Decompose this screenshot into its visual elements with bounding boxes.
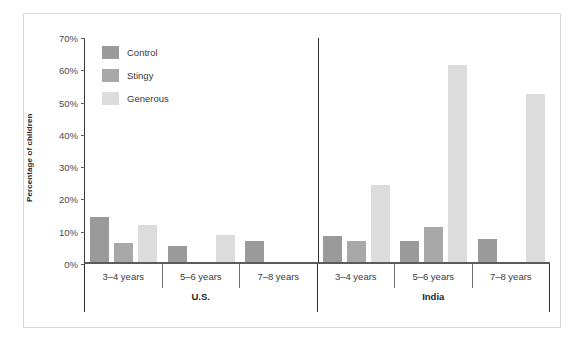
legend-label: Control (127, 47, 158, 58)
legend-label: Stingy (127, 70, 153, 81)
y-axis-tick-mark (81, 167, 85, 168)
y-axis-tick-label: 40% (38, 129, 78, 140)
y-axis-tick-label: 70% (38, 33, 78, 44)
x-axis-label-table: 3–4 years5–6 years7–8 years3–4 years5–6 … (84, 264, 550, 312)
y-axis-tick-mark (81, 135, 85, 136)
x-axis-age-label: 3–4 years (318, 264, 396, 288)
bar-control (400, 241, 419, 262)
bar-generous (526, 94, 545, 262)
x-axis-age-row: 3–4 years5–6 years7–8 years3–4 years5–6 … (84, 264, 550, 288)
bar-generous (138, 225, 157, 262)
bar-generous (216, 235, 235, 262)
bar-stingy (114, 243, 133, 262)
y-axis-tick-label: 0% (38, 259, 78, 270)
legend-item-control[interactable]: Control (102, 42, 232, 63)
bar-control (323, 236, 342, 262)
y-axis-tick-label: 10% (38, 226, 78, 237)
bar-control (478, 239, 497, 262)
y-axis-tick-mark (81, 38, 85, 39)
y-axis-tick-label: 20% (38, 194, 78, 205)
y-axis-tick-mark (81, 103, 85, 104)
y-axis-tick-mark (81, 70, 85, 71)
x-axis-age-label: 5–6 years (163, 264, 241, 288)
chart-figure: Percentage of children 0%10%20%30%40%50%… (23, 13, 561, 328)
country-group-india (318, 38, 551, 262)
legend-label: Generous (127, 93, 169, 104)
x-axis-age-label: 5–6 years (395, 264, 473, 288)
legend-swatch-stingy (102, 69, 119, 82)
y-axis-tick-mark (81, 232, 85, 233)
bar-control (168, 246, 187, 262)
bar-stingy (347, 241, 366, 262)
y-axis-tick-mark (81, 199, 85, 200)
x-axis-country-label: U.S. (84, 288, 318, 312)
bar-generous (448, 65, 467, 262)
legend-swatch-control (102, 46, 119, 59)
x-axis-country-label: India (318, 288, 551, 312)
legend-item-stingy[interactable]: Stingy (102, 65, 232, 86)
bar-control (90, 217, 109, 262)
y-axis-tick-label: 50% (38, 97, 78, 108)
bar-generous (371, 185, 390, 262)
y-axis-title: Percentage of children (22, 98, 38, 218)
x-axis-age-label: 7–8 years (473, 264, 551, 288)
chart-legend: ControlStingyGenerous (102, 42, 232, 111)
age-group-bars (395, 38, 472, 262)
x-axis-age-label: 7–8 years (240, 264, 318, 288)
y-axis-tick-labels: 0%10%20%30%40%50%60%70% (38, 36, 82, 264)
bar-control (245, 241, 264, 262)
x-axis-country-row: U.S.India (84, 288, 550, 312)
legend-item-generous[interactable]: Generous (102, 88, 232, 109)
x-axis-age-label: 3–4 years (84, 264, 163, 288)
age-group-bars (318, 38, 395, 262)
age-group-bars (472, 38, 549, 262)
y-axis-tick-label: 30% (38, 162, 78, 173)
legend-swatch-generous (102, 92, 119, 105)
age-group-bars (240, 38, 317, 262)
y-axis-tick-label: 60% (38, 65, 78, 76)
bar-stingy (424, 227, 443, 263)
